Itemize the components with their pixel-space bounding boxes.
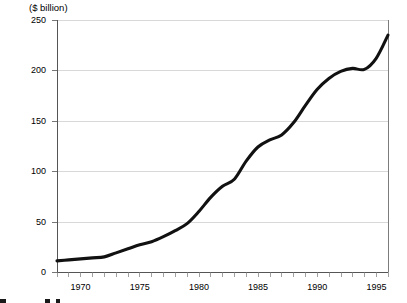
x-tick-label-1970: 1970 bbox=[71, 282, 91, 292]
y-tick-label-250: 250 bbox=[31, 15, 46, 25]
plot-gridlines bbox=[57, 20, 388, 222]
page-edge-artifact-left bbox=[0, 299, 6, 303]
x-tick-label-1980: 1980 bbox=[189, 282, 209, 292]
x-tick-label-1975: 1975 bbox=[130, 282, 150, 292]
y-tick-label-200: 200 bbox=[31, 65, 46, 75]
data-series-line bbox=[57, 35, 388, 261]
plot-frame bbox=[57, 20, 388, 272]
chart-axis-title: ($ billion) bbox=[29, 2, 68, 13]
x-tick-label-1985: 1985 bbox=[248, 282, 268, 292]
y-tick-label-0: 0 bbox=[41, 267, 46, 277]
line-chart: 250 200 150 100 50 0 bbox=[0, 0, 407, 303]
y-axis-ticks bbox=[52, 20, 57, 272]
y-tick-label-50: 50 bbox=[36, 217, 46, 227]
y-tick-label-100: 100 bbox=[31, 166, 46, 176]
page-edge-artifact-mid bbox=[45, 299, 50, 303]
x-tick-label-1990: 1990 bbox=[307, 282, 327, 292]
y-axis-labels: 250 200 150 100 50 0 bbox=[31, 15, 46, 277]
x-axis-minor-ticks bbox=[57, 272, 388, 277]
y-tick-label-150: 150 bbox=[31, 116, 46, 126]
x-axis-labels: 1970 1975 1980 1985 1990 1995 bbox=[71, 282, 387, 292]
chart-container: 250 200 150 100 50 0 bbox=[0, 0, 407, 303]
page-edge-artifact-right bbox=[56, 299, 60, 303]
x-tick-label-1995: 1995 bbox=[366, 282, 386, 292]
